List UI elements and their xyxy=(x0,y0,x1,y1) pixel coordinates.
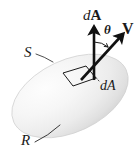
label-surface-s: S xyxy=(24,45,32,60)
leader-line-s xyxy=(36,54,53,62)
label-area-element: dA xyxy=(100,79,116,93)
label-theta: θ xyxy=(104,23,111,36)
label-region-r: R xyxy=(21,133,30,148)
label-normal-vector-d: d xyxy=(83,7,91,23)
figure-container: dA θ V dA S R xyxy=(0,0,140,158)
label-normal-vector: dA xyxy=(83,8,102,23)
label-normal-vector-a: A xyxy=(91,7,102,23)
label-velocity-vector: V xyxy=(122,21,134,37)
